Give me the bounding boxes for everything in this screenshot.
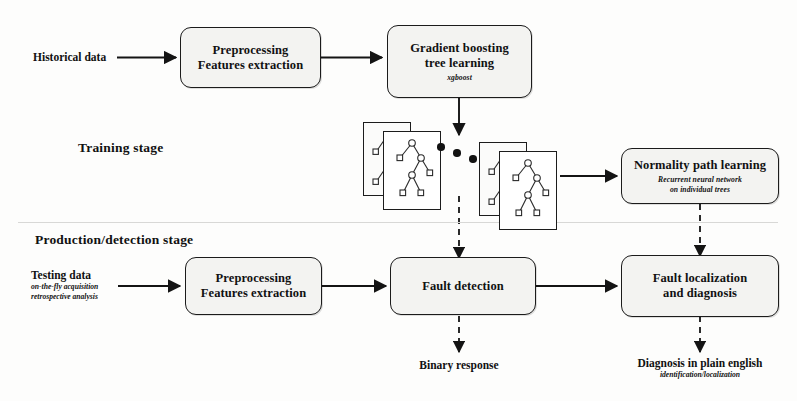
- box-gradient-boosting-line1: Gradient boosting: [410, 41, 509, 56]
- input-testing-data-sub1: on-the-fly acquisition: [31, 282, 98, 292]
- output-diagnosis-sub: identification/localization: [612, 370, 788, 380]
- output-binary-response-label: Binary response: [419, 359, 498, 371]
- box-normality-path-learning-sub1: Recurrent neural network: [658, 175, 742, 185]
- input-testing-data-sub2: retrospective analysis: [31, 292, 98, 302]
- box-gradient-boosting[interactable]: Gradient boosting tree learning xgboost: [387, 25, 532, 98]
- box-fault-localization[interactable]: Fault localization and diagnosis: [621, 255, 779, 317]
- input-historical-data: Historical data: [33, 50, 106, 64]
- output-diagnosis: Diagnosis in plain english identificatio…: [612, 356, 788, 380]
- diagram-canvas: Training stage Production/detection stag…: [0, 0, 797, 401]
- box-preprocessing-production[interactable]: Preprocessing Features extraction: [185, 257, 322, 315]
- input-testing-data-label: Testing data: [31, 269, 91, 281]
- stage-label-training: Training stage: [78, 140, 163, 156]
- box-fault-localization-line2: and diagnosis: [663, 286, 737, 301]
- stage-divider: [18, 222, 778, 223]
- box-preprocessing-training-line2: Features extraction: [198, 58, 303, 73]
- box-normality-path-learning[interactable]: Normality path learning Recurrent neural…: [621, 148, 779, 204]
- ellipsis-dot-1: [437, 143, 445, 151]
- box-fault-localization-line1: Fault localization: [653, 271, 748, 286]
- ellipsis-dot-3: [469, 155, 477, 163]
- box-gradient-boosting-subtitle: xgboost: [447, 73, 472, 83]
- output-diagnosis-label: Diagnosis in plain english: [638, 357, 763, 369]
- box-preprocessing-training[interactable]: Preprocessing Features extraction: [180, 27, 321, 88]
- box-preprocessing-training-line1: Preprocessing: [213, 43, 289, 58]
- box-normality-path-learning-line1: Normality path learning: [634, 158, 766, 173]
- input-testing-data: Testing data on-the-fly acquisition retr…: [31, 268, 98, 301]
- tree-graphic-front-right: [499, 151, 557, 230]
- tree-stack-left[interactable]: [363, 122, 448, 214]
- box-preprocessing-production-line1: Preprocessing: [216, 271, 292, 286]
- box-gradient-boosting-line2: tree learning: [425, 56, 494, 71]
- ellipsis-dot-2: [453, 149, 461, 157]
- box-fault-detection-line1: Fault detection: [422, 279, 504, 294]
- box-preprocessing-production-line2: Features extraction: [201, 286, 306, 301]
- output-binary-response: Binary response: [394, 358, 524, 372]
- tree-graphic-front-left: [383, 131, 441, 210]
- box-fault-detection[interactable]: Fault detection: [390, 257, 536, 315]
- tree-stack-right[interactable]: [479, 142, 564, 234]
- input-historical-data-label: Historical data: [33, 51, 106, 63]
- stage-label-production: Production/detection stage: [35, 232, 193, 248]
- box-normality-path-learning-sub2: on individual trees: [670, 185, 730, 195]
